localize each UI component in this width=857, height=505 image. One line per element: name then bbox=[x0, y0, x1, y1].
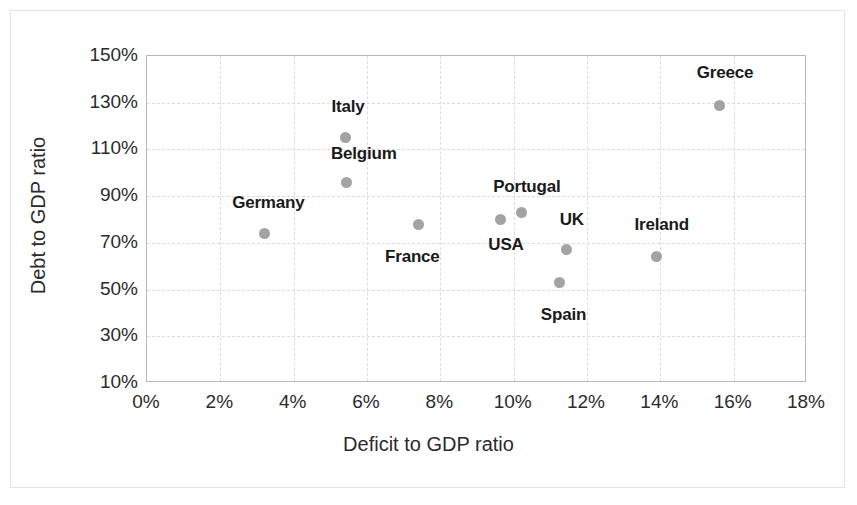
data-point-marker bbox=[516, 207, 527, 218]
data-point-label: France bbox=[385, 247, 440, 267]
y-axis-title: Debt to GDP ratio bbox=[27, 116, 50, 316]
x-tick-label: 10% bbox=[494, 391, 532, 413]
data-point-label: Italy bbox=[331, 97, 364, 117]
gridline-vertical bbox=[220, 56, 221, 381]
gridline-horizontal bbox=[147, 243, 805, 244]
data-point-marker bbox=[340, 132, 351, 143]
y-tick-label: 10% bbox=[100, 371, 138, 393]
y-axis-tick-labels: 10%30%50%70%90%110%130%150% bbox=[60, 0, 138, 505]
gridline-vertical bbox=[514, 56, 515, 381]
x-tick-label: 6% bbox=[352, 391, 379, 413]
x-axis-title: Deficit to GDP ratio bbox=[0, 433, 857, 456]
gridline-vertical bbox=[367, 56, 368, 381]
data-point-label: Spain bbox=[541, 305, 586, 325]
data-point-marker bbox=[714, 100, 725, 111]
x-axis-tick-labels: 0%2%4%6%8%10%12%14%16%18% bbox=[0, 391, 857, 421]
x-tick-label: 12% bbox=[567, 391, 605, 413]
x-tick-label: 2% bbox=[206, 391, 233, 413]
gridline-vertical bbox=[440, 56, 441, 381]
gridline-horizontal bbox=[147, 149, 805, 150]
data-point-label: Portugal bbox=[493, 177, 560, 197]
data-point-label: Ireland bbox=[634, 215, 688, 235]
x-tick-label: 14% bbox=[640, 391, 678, 413]
data-point-label: Belgium bbox=[331, 144, 397, 164]
x-tick-label: 8% bbox=[426, 391, 453, 413]
y-tick-label: 90% bbox=[100, 184, 138, 206]
data-point-marker bbox=[495, 214, 506, 225]
gridline-vertical bbox=[734, 56, 735, 381]
x-tick-label: 0% bbox=[132, 391, 159, 413]
data-point-marker bbox=[561, 244, 572, 255]
y-tick-label: 150% bbox=[89, 44, 138, 66]
data-point-label: USA bbox=[488, 235, 523, 255]
y-tick-label: 30% bbox=[100, 324, 138, 346]
data-point-label: Germany bbox=[232, 193, 304, 213]
data-point-marker bbox=[259, 228, 270, 239]
y-tick-label: 70% bbox=[100, 231, 138, 253]
data-point-marker bbox=[341, 177, 352, 188]
y-tick-label: 110% bbox=[91, 137, 138, 159]
gridline-horizontal bbox=[147, 103, 805, 104]
gridline-horizontal bbox=[147, 336, 805, 337]
data-point-label: Greece bbox=[697, 63, 753, 83]
gridline-vertical bbox=[294, 56, 295, 381]
scatter-chart-figure: GermanyItalyBelgiumFrancePortugalUSAUKSp… bbox=[0, 0, 857, 505]
gridline-horizontal bbox=[147, 290, 805, 291]
x-tick-label: 18% bbox=[787, 391, 825, 413]
data-point-label: UK bbox=[560, 210, 584, 230]
y-tick-label: 50% bbox=[100, 278, 138, 300]
data-point-marker bbox=[413, 219, 424, 230]
x-tick-label: 16% bbox=[714, 391, 752, 413]
data-point-marker bbox=[554, 277, 565, 288]
x-tick-label: 4% bbox=[279, 391, 306, 413]
y-tick-label: 130% bbox=[89, 91, 138, 113]
plot-area: GermanyItalyBelgiumFrancePortugalUSAUKSp… bbox=[146, 55, 806, 382]
gridline-vertical bbox=[587, 56, 588, 381]
